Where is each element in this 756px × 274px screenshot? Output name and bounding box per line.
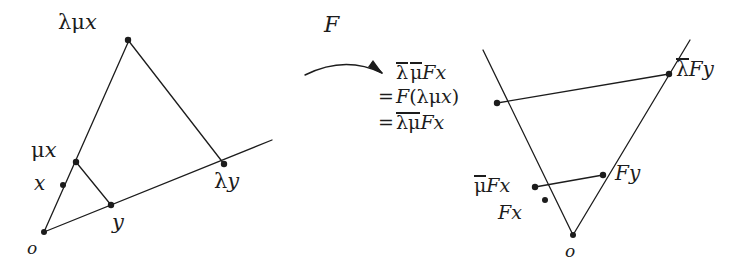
label-apex-equation-stack: λ μFx =F(λμx) =λμFx: [378, 62, 459, 137]
label-Fy: Fy: [615, 163, 640, 183]
point-lambda-y: [221, 161, 227, 167]
point-mu-x: [73, 159, 79, 165]
point-lambda-bar-mu-bar-Fx: [494, 100, 500, 106]
equation-line-1: λ μFx: [378, 62, 459, 87]
label-mu-bar-Fx: μFx: [474, 175, 510, 195]
equals-sign-2: =: [378, 113, 396, 132]
map-arrow-group: [305, 60, 383, 75]
label-map-F: F: [324, 14, 339, 36]
point-o-right: [570, 232, 576, 238]
point-x: [60, 182, 66, 188]
label-x: x: [34, 173, 45, 193]
point-mu-bar-Fx: [532, 184, 538, 190]
left-figure-points: [41, 37, 227, 235]
segment-lambda-mu-x-to-lambda-y: [128, 40, 224, 164]
point-lambda-bar-Fy: [666, 71, 672, 77]
segment-lambda-mu-Fx-to-lambda-Fy: [497, 74, 669, 103]
label-lambda-y: λy: [214, 171, 239, 192]
segment-o-to-lambda-mu-Fx-extended: [483, 50, 573, 235]
point-lambda-mu-x: [125, 37, 131, 43]
label-o-left: o: [27, 240, 37, 257]
label-lambda-mu-x: λμx: [58, 12, 97, 33]
left-figure-lines: [44, 38, 272, 232]
segment-o-to-lambda-Fy-extended: [573, 40, 690, 235]
equals-sign-1: =: [378, 87, 396, 106]
label-lambda-bar-Fy: λFy: [676, 58, 714, 79]
point-o-left: [41, 229, 47, 235]
point-Fx: [542, 197, 548, 203]
point-y: [108, 202, 114, 208]
point-Fy: [600, 172, 606, 178]
equation-line-2: =F(λμx): [378, 87, 459, 112]
math-diagram: λμx μx x o y λy F λ μFx =F(λμx) =λμFx λF…: [0, 0, 756, 274]
segment-mu-x-to-y: [76, 162, 111, 205]
equation-line-3: =λμFx: [378, 112, 459, 137]
label-o-right: o: [565, 243, 575, 260]
label-y: y: [112, 212, 124, 233]
label-Fx: Fx: [498, 203, 522, 222]
label-mu-x: μx: [31, 140, 57, 161]
